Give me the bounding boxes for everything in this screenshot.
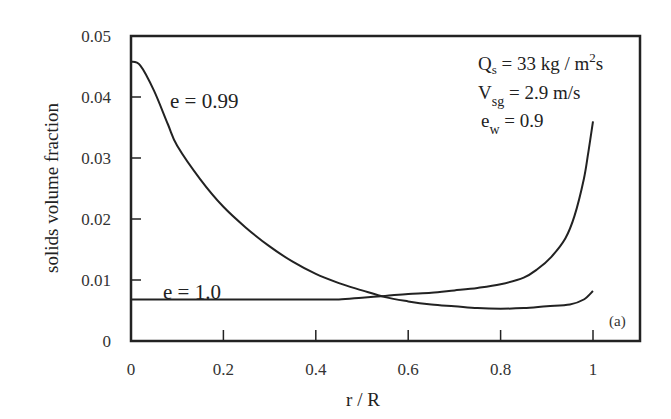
svg-text:Qs = 33 kg / m2s: Qs = 33 kg / m2s (478, 50, 603, 77)
chart: 00.010.020.030.040.05 00.20.40.60.81 r /… (0, 0, 671, 419)
svg-text:ew = 0.9: ew = 0.9 (481, 110, 544, 137)
y-tick-label: 0.02 (81, 210, 111, 229)
svg-text:Vsg = 2.9 m/s: Vsg = 2.9 m/s (478, 82, 580, 109)
y-tick-label: 0.04 (81, 88, 111, 107)
y-tick-label: 0.05 (81, 27, 111, 46)
parameter-annotation: Qs = 33 kg / m2s Vsg = 2.9 m/s ew = 0.9 (478, 50, 603, 137)
curve-label-e-0.99: e = 0.99 (170, 89, 238, 113)
x-tick-label: 0.2 (213, 360, 234, 379)
x-tick-label: 0.8 (490, 360, 511, 379)
curve-e-1.0 (131, 121, 593, 299)
y-tick-label: 0 (103, 332, 112, 351)
y-tick-label: 0.03 (81, 149, 111, 168)
x-tick-label: 0.6 (398, 360, 419, 379)
x-axis-ticks: 00.20.40.60.81 (127, 330, 598, 379)
y-tick-label: 0.01 (81, 271, 111, 290)
panel-label: (a) (609, 313, 626, 330)
x-tick-label: 0.4 (305, 360, 327, 379)
x-tick-label: 0 (127, 360, 136, 379)
curve-label-e-1.0: e = 1.0 (163, 280, 221, 304)
x-tick-label: 1 (589, 360, 598, 379)
x-axis-title: r / R (346, 389, 380, 410)
y-axis-title: solids volume fraction (41, 103, 62, 273)
